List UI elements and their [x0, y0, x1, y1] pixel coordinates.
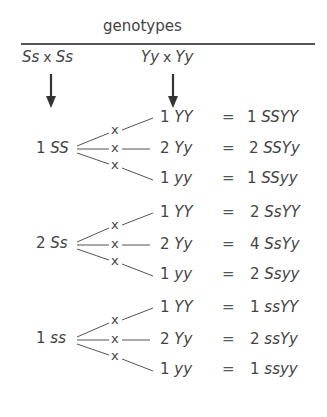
equals-sign: = — [222, 139, 235, 157]
offspring-ratio: 1 yy — [160, 169, 192, 187]
offspring-ratio: 1 yy — [160, 265, 192, 283]
combined-genotype: 1 ssyy — [250, 360, 298, 378]
group-genotype: SS — [50, 139, 69, 157]
equals-sign: = — [222, 360, 235, 378]
group-label-ss: 1 ss — [36, 329, 66, 347]
offspring-ratio: 1 YY — [160, 203, 193, 221]
cross-mark: x — [111, 236, 119, 251]
equals-sign: = — [222, 235, 235, 253]
combined-genotype: 1 SSyy — [247, 169, 298, 187]
group-genotype: ss — [50, 329, 66, 347]
cross-mark: x — [111, 122, 119, 137]
arrow-down-icon — [46, 74, 56, 108]
offspring-ratio: 1 yy — [160, 360, 192, 378]
offspring-ratio: 1 YY — [160, 298, 193, 316]
cross-mark: x — [111, 157, 119, 172]
combined-genotype: 2 Ssyy — [250, 265, 299, 283]
cross-mark: x — [111, 331, 119, 346]
combined-genotype: 2 SsYY — [250, 203, 300, 221]
combined-genotype: 2 SSYy — [249, 139, 300, 157]
group-label-Ss: 2 Ss — [36, 234, 68, 252]
group-count: 2 — [36, 234, 46, 252]
equals-sign: = — [222, 203, 235, 221]
combined-genotype: 4 SsYy — [250, 235, 300, 253]
combined-genotype: 2 ssYy — [250, 330, 298, 348]
group-genotype: Ss — [50, 234, 67, 252]
offspring-ratio: 1 YY — [160, 108, 193, 126]
group-count: 1 — [36, 329, 46, 347]
offspring-ratio: 2 Yy — [160, 235, 192, 253]
equals-sign: = — [222, 298, 235, 316]
arrow-down-icon — [168, 74, 178, 108]
combined-genotype: 1 SSYY — [247, 108, 298, 126]
combined-genotype: 1 ssYY — [250, 298, 298, 316]
cross-mark: x — [111, 312, 119, 327]
group-count: 1 — [36, 139, 46, 157]
offspring-ratio: 2 Yy — [160, 139, 192, 157]
cross-mark: x — [111, 140, 119, 155]
equals-sign: = — [222, 169, 235, 187]
equals-sign: = — [222, 330, 235, 348]
cross-mark: x — [111, 348, 119, 363]
equals-sign: = — [222, 265, 235, 283]
cross-mark: x — [111, 253, 119, 268]
equals-sign: = — [222, 108, 235, 126]
offspring-ratio: 2 Yy — [160, 330, 192, 348]
cross-mark: x — [111, 217, 119, 232]
group-label-SS: 1 SS — [36, 139, 69, 157]
